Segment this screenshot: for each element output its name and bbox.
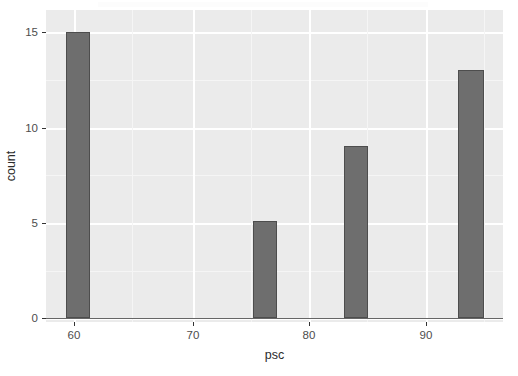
- bar-chart: 60 70 80 90 psc 0 5 10 15 count: [0, 0, 518, 376]
- bar-84: [344, 146, 368, 318]
- x-tick-label-60: 60: [68, 329, 81, 341]
- top-edge-artifact: [98, 2, 428, 7]
- bar-75: [253, 221, 277, 318]
- gridline-x-70: [193, 10, 195, 322]
- bar-60: [66, 32, 90, 318]
- y-axis-title: count: [4, 10, 18, 322]
- x-tick-label-70: 70: [187, 329, 200, 341]
- y-tick-mark-10: [42, 128, 46, 129]
- x-tick-mark-90: [426, 322, 427, 326]
- gridline-x-90: [426, 10, 428, 322]
- y-tick-label-5: 5: [32, 217, 38, 229]
- gridline-y-12_5: [46, 80, 503, 81]
- y-tick-mark-0: [42, 318, 46, 319]
- gridline-x-75: [251, 10, 252, 322]
- gridline-x-95: [484, 10, 485, 322]
- gridline-y-15: [46, 32, 503, 34]
- y-tick-label-15: 15: [25, 26, 38, 38]
- y-tick-mark-5: [42, 223, 46, 224]
- axis-baseline: [46, 318, 503, 319]
- x-tick-mark-60: [74, 322, 75, 326]
- x-axis-title: psc: [46, 348, 503, 362]
- y-tick-label-0: 0: [32, 312, 38, 324]
- gridline-x-65: [132, 10, 133, 322]
- x-tick-mark-70: [193, 322, 194, 326]
- x-tick-label-80: 80: [303, 329, 316, 341]
- y-tick-label-10: 10: [25, 122, 38, 134]
- gridline-x-80: [309, 10, 311, 322]
- x-tick-mark-80: [309, 322, 310, 326]
- gridline-y-7_5: [46, 175, 503, 176]
- plot-panel: [46, 10, 503, 322]
- bar-93: [458, 70, 484, 318]
- gridline-y-10: [46, 128, 503, 130]
- x-tick-label-90: 90: [420, 329, 433, 341]
- y-axis-title-text: count: [4, 151, 18, 182]
- y-tick-mark-15: [42, 32, 46, 33]
